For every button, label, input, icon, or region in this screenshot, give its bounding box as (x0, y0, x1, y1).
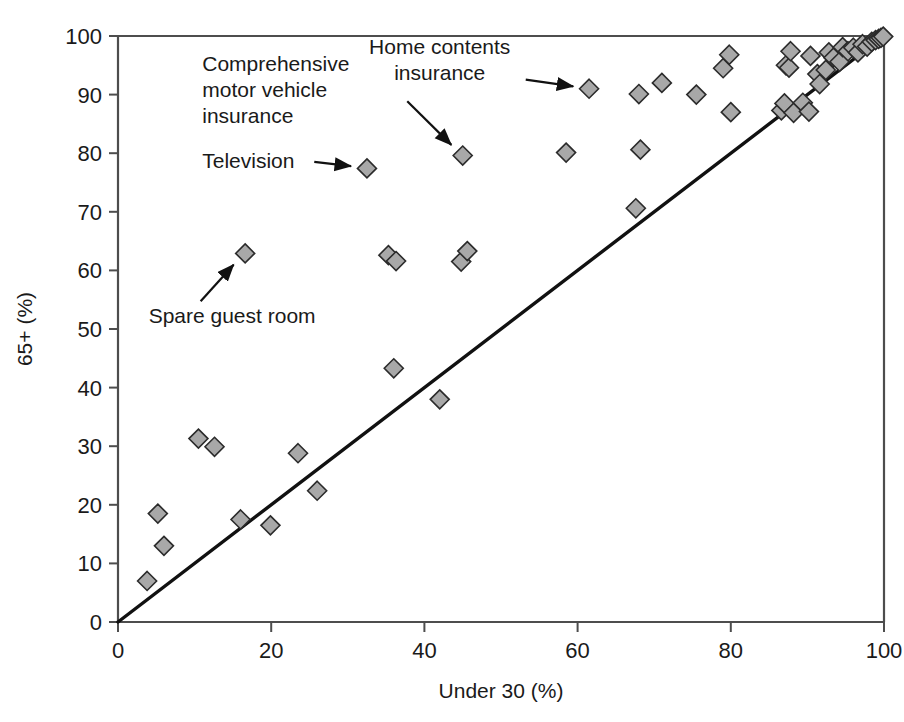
data-point (357, 159, 376, 178)
y-tick-label-100: 100 (65, 24, 102, 49)
y-tick-label-0: 0 (90, 610, 102, 635)
y-tick-label-90: 90 (78, 83, 102, 108)
x-tick-label-80: 80 (719, 638, 743, 663)
data-point (629, 85, 648, 104)
x-tick-label-0: 0 (112, 638, 124, 663)
data-point (189, 429, 208, 448)
annotation-television: Television (202, 149, 294, 172)
data-point (580, 79, 599, 98)
annotations-group: Home contentsinsuranceComprehensivemotor… (149, 35, 574, 328)
annotation-comprehensive-motor-vehicle-insurance: Comprehensivemotor vehicleinsurance (202, 52, 349, 127)
y-tick-label-30: 30 (78, 434, 102, 459)
data-point (205, 437, 224, 456)
y-tick-label-20: 20 (78, 493, 102, 518)
scatter-plot-figure: 0102030405060708090100020406080100 Under… (0, 0, 904, 722)
data-point (138, 571, 157, 590)
data-point (154, 536, 173, 555)
leader-arrow-home-contents-insurance (526, 80, 574, 87)
data-point (801, 46, 820, 65)
chart-canvas: 0102030405060708090100020406080100 Under… (0, 0, 904, 722)
x-axis-title: Under 30 (%) (439, 679, 564, 702)
y-tick-label-60: 60 (78, 258, 102, 283)
x-tick-label-100: 100 (866, 638, 903, 663)
y-tick-label-50: 50 (78, 317, 102, 342)
data-point (261, 516, 280, 535)
data-point (289, 444, 308, 463)
annotation-spare-guest-room: Spare guest room (149, 304, 316, 327)
data-point (687, 85, 706, 104)
data-point (626, 199, 645, 218)
data-point (721, 103, 740, 122)
y-tick-label-70: 70 (78, 200, 102, 225)
y-tick-label-80: 80 (78, 141, 102, 166)
data-point (236, 244, 255, 263)
leader-arrow-comprehensive-motor-vehicle-insurance (407, 101, 451, 145)
data-point (453, 146, 472, 165)
x-tick-label-40: 40 (412, 638, 436, 663)
data-point (308, 481, 327, 500)
data-point (231, 510, 250, 529)
data-point (631, 140, 650, 159)
y-axis-title: 65+ (%) (13, 292, 36, 366)
x-tick-label-20: 20 (259, 638, 283, 663)
annotation-home-contents-insurance: Home contentsinsurance (369, 35, 510, 84)
data-point (148, 504, 167, 523)
y-tick-label-40: 40 (78, 376, 102, 401)
data-point (384, 359, 403, 378)
y-tick-label-10: 10 (78, 551, 102, 576)
data-point (430, 390, 449, 409)
data-point (557, 143, 576, 162)
leader-arrow-television (314, 162, 351, 166)
leader-arrow-spare-guest-room (201, 265, 234, 301)
data-point (652, 73, 671, 92)
x-tick-label-60: 60 (565, 638, 589, 663)
